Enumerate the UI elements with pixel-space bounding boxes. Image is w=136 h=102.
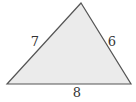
- side-label-left: 7: [31, 34, 39, 49]
- side-label-bottom: 8: [73, 85, 81, 100]
- side-label-right: 6: [108, 34, 116, 49]
- triangle-diagram: 7 6 8: [0, 0, 136, 102]
